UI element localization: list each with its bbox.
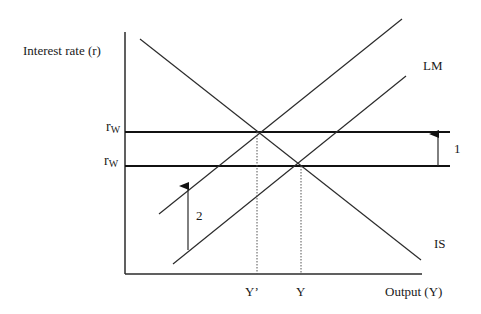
rw-upper-label: rW xyxy=(106,120,120,135)
arrow-1-label: 1 xyxy=(454,142,461,155)
y-axis-label: Interest rate (r) xyxy=(23,44,101,57)
rw-lower-label: rW xyxy=(104,154,118,169)
y-tick-label: Y xyxy=(296,285,305,298)
rw-upper-subscript: W xyxy=(111,124,120,135)
lm-curve xyxy=(173,76,406,264)
x-axis-label: Output (Y) xyxy=(385,285,442,298)
is-curve xyxy=(140,39,421,260)
y-prime-tick-label: Y’ xyxy=(245,285,259,298)
lm-label: LM xyxy=(423,59,443,72)
is-label: IS xyxy=(434,237,446,250)
rw-lower-subscript: W xyxy=(109,158,118,169)
arrow-2-label: 2 xyxy=(196,209,203,222)
lm-shifted-curve xyxy=(159,19,402,214)
